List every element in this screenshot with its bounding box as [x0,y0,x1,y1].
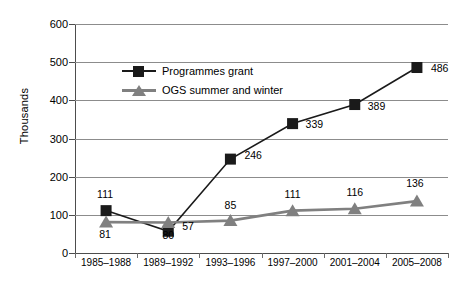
data-point-label: 81 [99,228,111,240]
data-point-label: 339 [306,118,324,130]
data-point-label: 111 [97,188,113,200]
legend: Programmes grant OGS summer and winter [122,61,322,99]
data-point-square [411,62,422,73]
data-point-label: 116 [346,186,363,198]
square-marker-icon [122,64,156,78]
legend-label-programmes-grant: Programmes grant [162,65,253,77]
data-point-label: 246 [244,149,262,161]
legend-item-programmes-grant: Programmes grant [122,61,322,80]
data-point-square [349,99,360,110]
line-chart: Thousands 0100200300400500600 1985–19881… [0,0,468,283]
triangle-marker-icon [122,83,156,97]
legend-item-ogs: OGS summer and winter [122,80,322,99]
data-point-label: 111 [285,188,301,200]
data-point-label: 136 [406,177,424,189]
data-point-label: 57 [182,220,194,232]
data-point-square [101,205,112,216]
data-point-square [225,154,236,165]
data-point-label: 85 [225,199,237,211]
series-line-ogs [106,201,417,222]
data-point-square [287,118,298,129]
series-layer [0,0,468,283]
data-point-label: 486 [431,62,449,74]
data-point-label: 80 [162,229,174,241]
legend-label-ogs: OGS summer and winter [162,84,283,96]
data-point-label: 389 [368,100,386,112]
